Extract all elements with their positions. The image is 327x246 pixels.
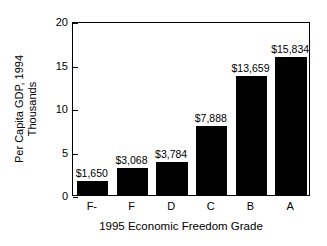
bar-value-label: $3,784 <box>136 149 206 160</box>
bar-value-label: $7,888 <box>176 113 246 124</box>
y-axis-tick-label: 5 <box>44 147 68 158</box>
y-axis-tick-label: 20 <box>44 17 68 28</box>
x-axis-tick-label: A <box>265 200 315 213</box>
bar-value-label: $15,834 <box>255 44 325 55</box>
y-axis-tick-label: 10 <box>44 104 68 115</box>
y-axis-title-line-2: Thousands <box>26 55 39 163</box>
bar <box>236 76 267 195</box>
y-axis-title-line-1: Per Capita GDP, 1994 <box>13 55 26 163</box>
y-axis-tick-label: 15 <box>44 60 68 71</box>
bar <box>77 181 108 195</box>
y-axis-tick-mark <box>73 197 78 198</box>
bar-value-label: $1,650 <box>57 168 127 179</box>
bar <box>196 126 227 195</box>
y-axis-tick-label: 0 <box>44 191 68 202</box>
bar <box>156 162 187 195</box>
y-axis-tick-labels: 05101520 <box>44 0 68 246</box>
bar-value-label: $13,659 <box>216 63 286 74</box>
x-axis-tick-labels: F-FDCBA <box>72 200 310 216</box>
bar <box>275 57 306 195</box>
y-axis-title: Per Capita GDP, 1994 Thousands <box>4 22 48 196</box>
bar-chart-figure: Per Capita GDP, 1994 Thousands 05101520 … <box>0 0 327 246</box>
x-axis-title: 1995 Economic Freedom Grade <box>52 219 310 233</box>
